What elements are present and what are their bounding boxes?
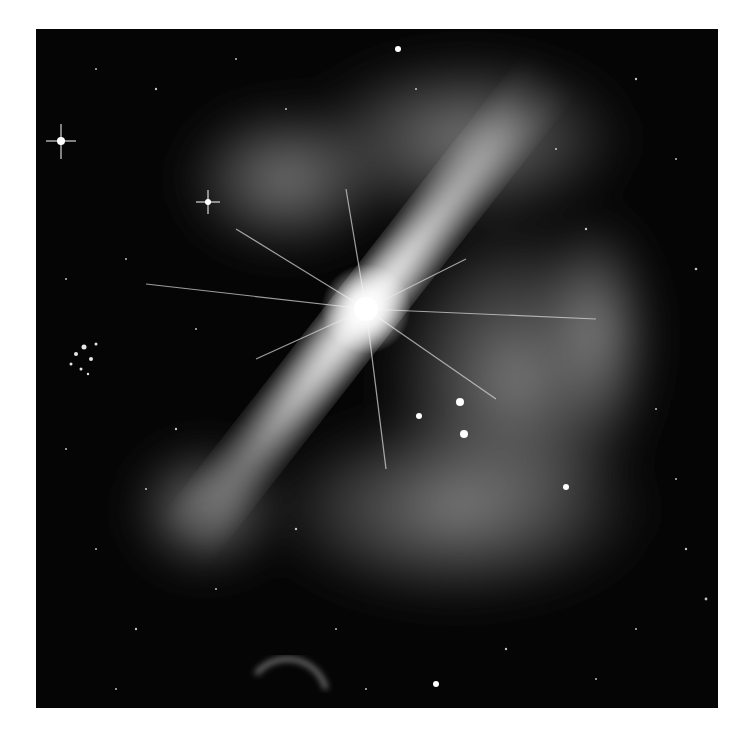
nebula-image bbox=[36, 29, 718, 708]
planet bbox=[256, 659, 326, 689]
nebula-illustration bbox=[36, 29, 718, 708]
star-cluster bbox=[70, 343, 98, 376]
